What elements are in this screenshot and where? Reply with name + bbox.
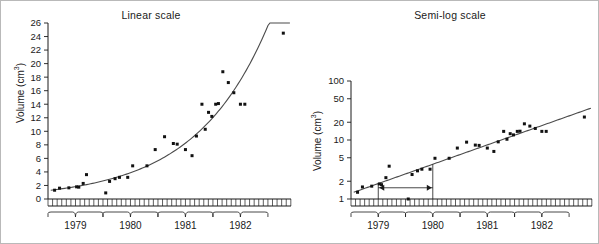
data-point xyxy=(239,103,242,106)
year-label: 1979 xyxy=(367,220,390,231)
y-tick-label: 6 xyxy=(36,153,41,164)
data-point xyxy=(204,128,207,131)
data-point xyxy=(145,164,148,167)
y-tick-label: 24 xyxy=(30,31,41,42)
data-point xyxy=(384,176,387,179)
year-label: 1980 xyxy=(119,220,142,231)
semilog-year-brackets xyxy=(351,212,569,217)
y-tick-label: 16 xyxy=(30,85,41,96)
data-point xyxy=(448,157,451,160)
data-point xyxy=(502,130,505,133)
data-point xyxy=(232,91,235,94)
semilog-axes xyxy=(351,81,592,199)
y-tick-label: 26 xyxy=(30,17,41,28)
linear-y-axis-ticks: 02468101214161820222426 xyxy=(30,17,48,204)
linear-axes xyxy=(48,23,291,199)
year-label: 1981 xyxy=(174,220,197,231)
linear-data-points xyxy=(53,32,285,195)
data-point xyxy=(356,191,359,194)
panel-linear-scale: Linear scale Volume (cm3) 02468101214161… xyxy=(1,1,301,244)
data-point xyxy=(456,147,459,150)
y-tick-label: 20 xyxy=(333,117,344,128)
year-label: 1980 xyxy=(422,220,445,231)
data-point xyxy=(243,103,246,106)
data-point xyxy=(509,132,512,135)
data-point xyxy=(210,115,213,118)
data-point xyxy=(131,164,134,167)
semilog-fit-line xyxy=(354,108,591,192)
year-bracket xyxy=(103,212,158,217)
data-point xyxy=(58,187,61,190)
annotation-arrowhead-right xyxy=(427,185,432,191)
y-tick-label: 50 xyxy=(333,93,344,104)
year-label: 1981 xyxy=(476,220,499,231)
data-point xyxy=(492,150,495,153)
data-point xyxy=(519,130,522,133)
data-point xyxy=(429,168,432,171)
year-bracket xyxy=(213,212,268,217)
year-bracket xyxy=(460,212,515,217)
data-point xyxy=(512,133,515,136)
data-point xyxy=(505,138,508,141)
y-tick-label: 1 xyxy=(339,193,344,204)
y-tick-label: 20 xyxy=(30,58,41,69)
data-point xyxy=(380,183,383,186)
linear-year-brackets xyxy=(48,212,268,217)
data-point xyxy=(114,177,117,180)
data-point xyxy=(478,144,481,147)
data-point xyxy=(416,169,419,172)
data-point xyxy=(388,165,391,168)
data-point xyxy=(221,70,224,73)
semilog-doubling-time-annotation xyxy=(378,164,433,199)
data-point xyxy=(163,135,166,138)
data-point xyxy=(108,180,111,183)
data-point xyxy=(126,176,129,179)
data-point xyxy=(516,130,519,133)
data-point xyxy=(486,147,489,150)
data-point xyxy=(370,185,373,188)
semilog-year-labels: 1979198019811982 xyxy=(367,220,553,231)
data-point xyxy=(154,148,157,151)
y-tick-label: 10 xyxy=(30,126,41,137)
data-point xyxy=(195,135,198,138)
data-point xyxy=(176,143,179,146)
data-point xyxy=(85,173,88,176)
y-tick-label: 0 xyxy=(36,193,41,204)
year-bracket xyxy=(158,212,213,217)
y-tick-label: 8 xyxy=(36,139,41,150)
year-bracket xyxy=(406,212,461,217)
y-tick-label: 4 xyxy=(36,166,41,177)
data-point xyxy=(172,142,175,145)
y-tick-label: 100 xyxy=(328,75,344,86)
data-point xyxy=(465,141,468,144)
y-tick-label: 12 xyxy=(30,112,41,123)
semilog-plot-svg: 125102050100 1979198019811982 xyxy=(300,1,599,244)
data-point xyxy=(217,102,220,105)
year-label: 1979 xyxy=(64,220,87,231)
data-point xyxy=(53,189,56,192)
data-point xyxy=(361,185,364,188)
y-tick-label: 14 xyxy=(30,99,41,110)
data-point xyxy=(77,186,80,189)
y-tick-label: 2 xyxy=(339,176,344,187)
linear-year-labels: 1979198019811982 xyxy=(64,220,252,231)
data-point xyxy=(540,130,543,133)
y-tick-label: 10 xyxy=(333,134,344,145)
year-label: 1982 xyxy=(531,220,554,231)
data-point xyxy=(534,127,537,130)
data-point xyxy=(82,182,85,185)
year-bracket xyxy=(351,212,406,217)
year-label: 1982 xyxy=(229,220,252,231)
data-point xyxy=(104,191,107,194)
data-point xyxy=(411,173,414,176)
data-point xyxy=(545,130,548,133)
y-tick-label: 5 xyxy=(339,152,344,163)
semilog-x-minor-ticks xyxy=(351,199,592,206)
year-bracket xyxy=(48,212,103,217)
figure-container: Linear scale Volume (cm3) 02468101214161… xyxy=(0,0,599,244)
data-point xyxy=(200,103,203,106)
year-bracket xyxy=(515,212,570,217)
linear-fit-curve xyxy=(51,23,290,190)
linear-x-minor-ticks xyxy=(48,199,291,206)
data-point xyxy=(523,122,526,125)
